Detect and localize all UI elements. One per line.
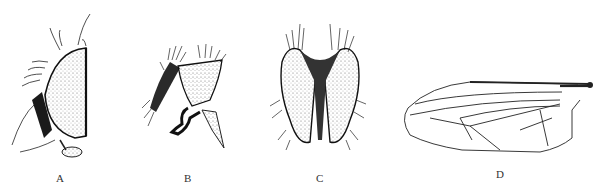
wing-illustration bbox=[400, 0, 600, 189]
panel-label-b: B bbox=[184, 172, 191, 184]
panel-c: C bbox=[260, 0, 380, 189]
head-illustration bbox=[0, 0, 150, 189]
panel-b: B bbox=[140, 0, 260, 189]
panel-label-a: A bbox=[56, 172, 64, 184]
panel-d: D bbox=[400, 0, 600, 189]
panel-a: A bbox=[0, 0, 150, 189]
genitalia-lateral-illustration bbox=[140, 0, 260, 189]
genitalia-dorsal-illustration bbox=[260, 0, 380, 189]
panel-label-c: C bbox=[316, 172, 323, 184]
panel-label-d: D bbox=[496, 168, 504, 180]
